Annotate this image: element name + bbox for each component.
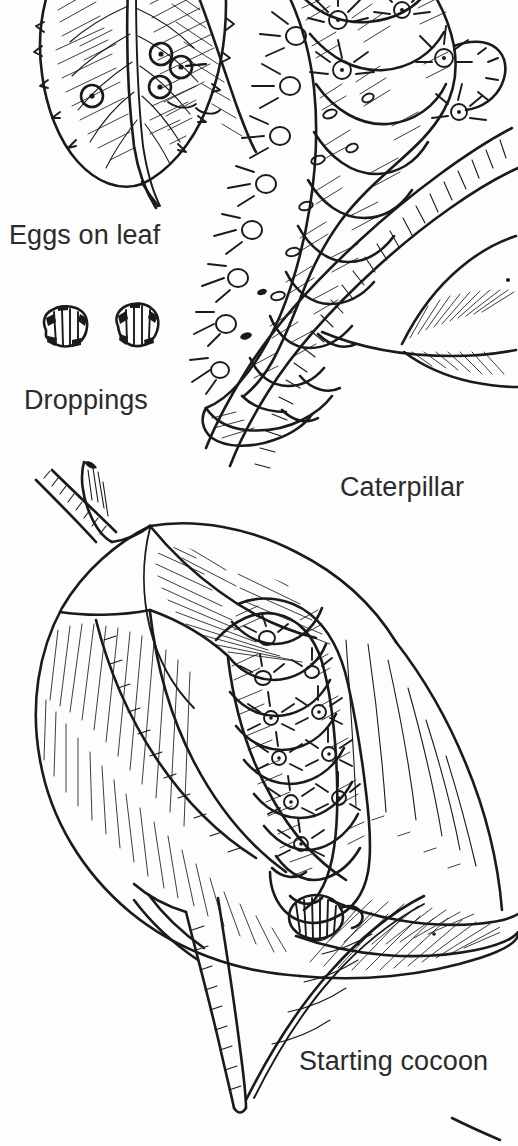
field-guide-artwork: .s{fill:none;stroke:#1a1a1a;stroke-linec… — [0, 0, 518, 1146]
label-starting-cocoon: Starting cocoon — [299, 1048, 488, 1075]
label-caterpillar: Caterpillar — [340, 474, 464, 501]
droppings-illustration — [44, 303, 158, 347]
eggs-on-leaf-illustration — [34, 0, 234, 208]
label-droppings: Droppings — [24, 387, 148, 414]
label-eggs-on-leaf: Eggs on leaf — [9, 222, 160, 249]
illustration-plate: .s{fill:none;stroke:#1a1a1a;stroke-linec… — [0, 0, 518, 1146]
starting-cocoon-illustration — [36, 461, 518, 1140]
caterpillar-illustration — [172, 0, 518, 468]
